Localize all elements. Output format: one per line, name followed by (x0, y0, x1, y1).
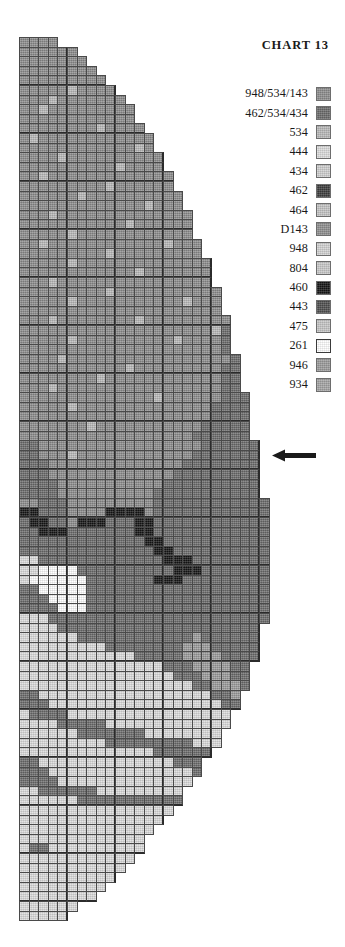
grid-cell (163, 805, 174, 816)
chart-page: CHART 13 948/534/143462/534/434534444434… (0, 0, 345, 947)
grid-cell (96, 882, 107, 893)
legend-color-swatch (316, 145, 331, 159)
legend-color-swatch (316, 319, 331, 333)
grid-cell (153, 815, 164, 826)
grid-cell (67, 901, 78, 912)
grid-cell (86, 891, 97, 902)
legend-color-swatch (316, 125, 331, 139)
legend-label: 804 (289, 261, 316, 276)
grid-cell (105, 872, 116, 883)
grid-cell (230, 699, 241, 710)
legend-color-swatch (316, 261, 331, 275)
legend-label: 261 (289, 338, 316, 353)
row-indicator-arrow-icon (272, 449, 316, 462)
legend-label: 475 (289, 319, 316, 334)
legend-label: 434 (289, 164, 316, 179)
legend-color-swatch (316, 164, 331, 178)
legend-label: 464 (289, 203, 316, 218)
legend-label: 948 (289, 241, 316, 256)
legend-label: 534 (289, 125, 316, 140)
legend-color-swatch (316, 242, 331, 256)
legend-color-swatch (316, 281, 331, 295)
legend-color-swatch (316, 87, 331, 101)
grid-cell (57, 911, 68, 922)
legend-label: 946 (289, 358, 316, 373)
legend-label: 462 (289, 183, 316, 198)
legend-color-swatch (316, 203, 331, 217)
grid-cell (115, 863, 126, 874)
legend-color-swatch (316, 184, 331, 198)
legend-label: 934 (289, 377, 316, 392)
legend-label: D143 (281, 222, 316, 237)
grid-cells (19, 37, 269, 923)
grid-cell (134, 843, 145, 854)
grid-cell (182, 776, 193, 787)
grid-cell (249, 651, 260, 662)
grid-cell (240, 680, 251, 691)
grid-cell (221, 719, 232, 730)
legend-color-swatch (316, 222, 331, 236)
grid-cell (144, 824, 155, 835)
legend-color-swatch (316, 339, 331, 353)
grid-cell (173, 795, 184, 806)
legend-label: 444 (289, 144, 316, 159)
grid-cell (211, 738, 222, 749)
grid-cell (192, 767, 203, 778)
legend-color-swatch (316, 378, 331, 392)
grid-cell (201, 747, 212, 758)
legend-label: 443 (289, 299, 316, 314)
grid-cell (125, 853, 136, 864)
legend-color-swatch (316, 300, 331, 314)
legend-label: 460 (289, 280, 316, 295)
stitch-chart-grid (19, 37, 269, 923)
legend-color-swatch (316, 106, 331, 120)
grid-cell (259, 613, 270, 624)
page-title: CHART 13 (262, 38, 329, 53)
legend-color-swatch (316, 358, 331, 372)
